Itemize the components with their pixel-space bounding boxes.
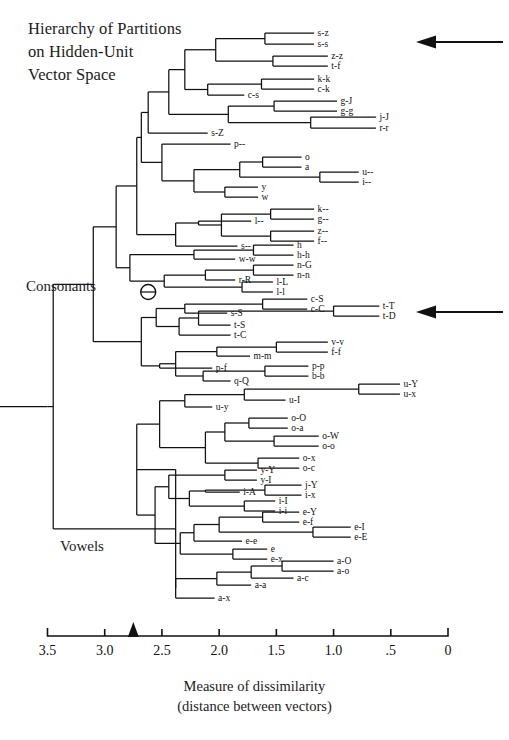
leaf-label: c-S [311, 294, 324, 304]
arrow-top-head [416, 36, 436, 49]
leaf-label: g-g [341, 106, 354, 116]
page-title: Hierarchy of Partitions on Hidden-Unit V… [28, 18, 182, 86]
leaf-label: g-- [318, 214, 329, 224]
leaf-label: h-h [297, 250, 310, 260]
leaf-label: v-v [331, 337, 344, 347]
axis-tick-label: 1.0 [325, 643, 343, 658]
leaf-label: b-b [312, 371, 325, 381]
leaf-label: l-l [276, 287, 285, 297]
leaf-label: t-f [331, 61, 341, 71]
arrow-middle-head [416, 306, 436, 319]
leaf-label: h [297, 240, 302, 250]
leaf-label: s-Z [211, 128, 224, 138]
axis-tick-label: 3.0 [96, 643, 114, 658]
leaf-label: k-k [318, 74, 331, 84]
leaf-label: u-- [362, 167, 373, 177]
cut-level-marker [128, 622, 139, 637]
axis-tick-label: 1.5 [268, 643, 286, 658]
leaf-label: i-- [362, 177, 371, 187]
axis-tick-label: .5 [386, 643, 397, 658]
axis-group: 3.53.02.52.01.51.0.50 [39, 622, 452, 658]
axis-tick-label: 0 [445, 643, 452, 658]
leaf-label: g-J [341, 96, 353, 106]
leaf-label: o-o [322, 441, 335, 451]
leaf-label: w [262, 192, 269, 202]
leaf-label: e-Y [303, 507, 317, 517]
annotation-arrows [416, 36, 503, 319]
leaf-label: a [305, 162, 310, 172]
axis-tick-label: 2.5 [153, 643, 171, 658]
leaf-label: y-I [260, 475, 271, 485]
leaf-label: f-- [318, 236, 328, 246]
leaf-label: o-O [291, 413, 306, 423]
dendrogram-figure: Hierarchy of Partitions on Hidden-Unit V… [0, 0, 509, 740]
leaf-label: j-J [378, 112, 389, 122]
dendrogram-svg: s-zs-sz-zt-fk-kc-kg-Jg-gj-Jr-rc-ss-Zp--o… [0, 0, 509, 740]
leaf-label: c-s [248, 90, 259, 100]
leaf-label: n-G [297, 260, 312, 270]
leaf-label: l-- [255, 216, 264, 226]
leaf-label: r-R [239, 275, 252, 285]
leaf-label: o-W [322, 431, 339, 441]
leaf-label: k-- [318, 204, 329, 214]
leaf-label: u-Y [403, 379, 418, 389]
leaf-label: a-c [297, 573, 309, 583]
leaf-label: e-x [271, 554, 283, 564]
group-label-consonants: Consonants [26, 278, 96, 295]
leaf-label: z-z [331, 51, 343, 61]
axis-tick-label: 2.0 [210, 643, 228, 658]
leaf-label: z-- [318, 226, 329, 236]
leaf-label: u-I [289, 395, 300, 405]
leaf-label: o [305, 152, 310, 162]
leaf-label: y [262, 182, 267, 192]
leaf-label: i-i [279, 506, 288, 516]
leaf-label: u-y [216, 402, 229, 412]
leaf-label: j-Y [304, 480, 318, 490]
branch-lines [0, 33, 400, 598]
leaf-label: o-a [291, 423, 304, 433]
leaf-label: u-x [403, 389, 416, 399]
leaf-label: s-z [318, 28, 329, 38]
leaf-label: c-k [318, 84, 330, 94]
leaf-label: t-T [383, 301, 395, 311]
leaf-label: s-- [241, 241, 251, 251]
leaf-label: e-e [246, 536, 258, 546]
axis-line [48, 628, 449, 636]
leaf-label: n-n [297, 270, 310, 280]
leaf-label: i-x [305, 490, 316, 500]
group-label-vowels: Vowels [60, 538, 104, 555]
leaf-label: e-E [354, 532, 367, 542]
leaf-label: e-f [303, 517, 314, 527]
leaf-label: q-Q [234, 376, 249, 386]
leaf-label: i-A [243, 487, 256, 497]
leaf-label: p-p [312, 361, 325, 371]
leaf-label: w-w [239, 254, 256, 264]
leaf-label: l-L [276, 277, 288, 287]
leaf-label: t-S [234, 320, 245, 330]
axis-tick-label: 3.5 [39, 643, 57, 658]
leaf-label: c-C [311, 304, 325, 314]
leaf-label: e-I [354, 522, 365, 532]
leaf-label: p-f [216, 363, 228, 373]
leaf-label: t-C [234, 330, 246, 340]
leaf-label: e [271, 544, 275, 554]
axis-caption: Measure of dissimilarity (distance betwe… [0, 676, 509, 717]
leaf-label: a-o [337, 566, 349, 576]
leaf-label: r-r [379, 123, 389, 133]
leaf-label: a-O [337, 556, 351, 566]
leaf-label: s-s [318, 39, 329, 49]
leaf-label: y-Y [260, 465, 275, 475]
leaf-label: o-c [303, 463, 315, 473]
leaf-label: s-S [231, 308, 243, 318]
leaf-label: t-D [383, 311, 396, 321]
leaf-label: f-f [331, 347, 341, 357]
leaf-label: p-- [234, 139, 245, 149]
leaf-label: a-a [255, 580, 267, 590]
leaf-label: i-I [279, 496, 288, 506]
leaf-label: a-x [218, 593, 230, 603]
leaf-label: m-m [254, 351, 273, 361]
leaf-label: o-x [303, 453, 316, 463]
